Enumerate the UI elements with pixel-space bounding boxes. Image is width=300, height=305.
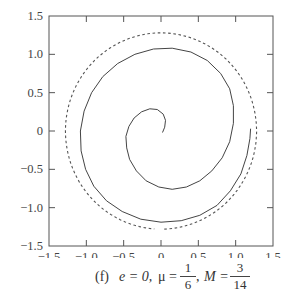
x-tick-label: 0 bbox=[158, 250, 164, 258]
y-tick-label: −1.0 bbox=[20, 201, 43, 215]
dashed-boundary-circle bbox=[65, 33, 256, 229]
caption-e-value: e = 0, bbox=[119, 269, 152, 285]
x-tick-label: −1.0 bbox=[75, 250, 98, 258]
y-tick-label: 1.5 bbox=[27, 9, 43, 23]
caption-mu-symbol: μ = bbox=[158, 269, 177, 285]
x-tick-label: 1.0 bbox=[228, 250, 244, 258]
caption-mu-fraction: 1 6 bbox=[180, 261, 196, 292]
figure-caption: (f) e = 0, μ = 1 6 , M = 3 14 bbox=[0, 258, 300, 298]
y-tick-label: −1.5 bbox=[20, 239, 43, 253]
y-tick-label: 0 bbox=[37, 124, 43, 138]
y-tick-label: −0.5 bbox=[20, 162, 43, 176]
y-tick-label: 0.5 bbox=[27, 86, 43, 100]
chart-plot: −1.5−1.0−0.500.51.01.5 −1.5−1.0−0.500.51… bbox=[0, 0, 300, 258]
axis-ticks bbox=[49, 16, 273, 246]
y-tick-label: 1.0 bbox=[27, 47, 43, 61]
spiral-trajectory-line bbox=[80, 48, 250, 222]
caption-m-fraction: 3 14 bbox=[230, 261, 250, 292]
x-axis-tick-labels: −1.5−1.0−0.500.51.01.5 bbox=[38, 250, 281, 258]
x-tick-label: −0.5 bbox=[112, 250, 135, 258]
caption-label: (f) bbox=[95, 269, 109, 285]
caption-comma: , bbox=[196, 269, 200, 285]
x-tick-label: 1.5 bbox=[265, 250, 281, 258]
y-axis-tick-labels: −1.5−1.0−0.500.51.01.5 bbox=[20, 9, 43, 253]
caption-m-symbol: M = bbox=[204, 269, 229, 285]
x-tick-label: 0.5 bbox=[191, 250, 207, 258]
plot-frame bbox=[49, 16, 273, 246]
